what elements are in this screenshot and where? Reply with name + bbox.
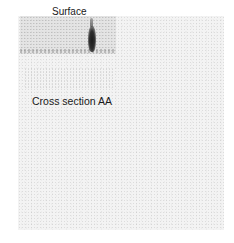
subsurface-region bbox=[24, 68, 114, 90]
dark-vertical-feature bbox=[88, 26, 96, 52]
micrograph-figure: Surface Cross section AA bbox=[0, 0, 234, 243]
surface-boundary-line bbox=[20, 49, 116, 53]
cross-section-label: Cross section AA bbox=[32, 95, 112, 107]
surface-label: Surface bbox=[52, 6, 86, 18]
